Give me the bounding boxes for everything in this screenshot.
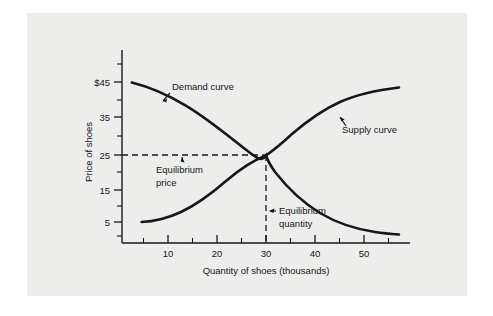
x-tick-label: 50 — [359, 248, 370, 259]
y-tick-label: 5 — [105, 217, 110, 228]
x-axis-title: Quantity of shoes (thousands) — [203, 265, 330, 276]
equilibrium-quantity-label-line1: Equilibrium — [279, 205, 326, 216]
equilibrium-price-leader-line — [182, 157, 183, 161]
y-tick-label: 35 — [99, 112, 110, 123]
y-axis-ticks — [114, 64, 122, 236]
supply-curve-annotation: Supply curve — [340, 117, 397, 135]
equilibrium-price-label-line2: price — [156, 177, 177, 188]
supply-demand-chart: $45 35 25 15 5 10 20 30 40 50 — [0, 0, 493, 316]
axes-group — [122, 50, 410, 243]
y-tick-label: $45 — [94, 77, 110, 88]
y-axis-tick-labels: $45 35 25 15 5 — [94, 77, 110, 228]
equilibrium-price-annotation: Equilibrium price — [156, 157, 203, 188]
x-tick-label: 20 — [212, 248, 223, 259]
x-tick-label: 40 — [310, 248, 321, 259]
equilibrium-quantity-label-line2: quantity — [279, 218, 313, 229]
demand-curve-label: Demand curve — [172, 81, 234, 92]
equilibrium-quantity-annotation: Equilibrium quantity — [269, 205, 326, 229]
supply-curve-label: Supply curve — [342, 124, 397, 135]
x-axis-tick-labels: 10 20 30 40 50 — [163, 248, 370, 259]
y-tick-label: 15 — [99, 185, 110, 196]
demand-curve — [132, 83, 399, 235]
equilibrium-price-label-line1: Equilibrium — [156, 164, 203, 175]
x-tick-label: 30 — [261, 248, 272, 259]
x-tick-label: 10 — [163, 248, 174, 259]
economics-supply-demand-figure: $45 35 25 15 5 10 20 30 40 50 — [0, 0, 493, 316]
supply-curve — [142, 88, 399, 223]
y-axis-title: Price of shoes — [83, 122, 94, 182]
equilibrium-quantity-arrow — [269, 209, 274, 213]
supply-curve-leader-arrow — [340, 117, 345, 122]
y-tick-label: 25 — [99, 150, 110, 161]
